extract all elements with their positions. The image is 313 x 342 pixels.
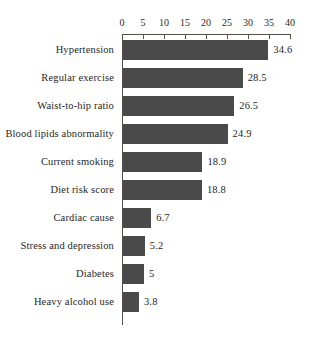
bar xyxy=(123,124,228,144)
bar-category-label: Current smoking xyxy=(0,152,114,172)
bar-rows: Hypertension34.6Regular exercise28.5Wais… xyxy=(0,0,313,342)
bar-row: Stress and depression5.2 xyxy=(0,236,313,256)
bar xyxy=(123,40,268,60)
bar-value-label: 34.6 xyxy=(273,40,292,60)
bar xyxy=(123,152,202,172)
bar xyxy=(123,180,202,200)
bar xyxy=(123,96,234,116)
bar-row: Diet risk score18.8 xyxy=(0,180,313,200)
bar-category-label: Diabetes xyxy=(0,264,114,284)
bar-row: Waist-to-hip ratio26.5 xyxy=(0,96,313,116)
bar-value-label: 5 xyxy=(149,264,154,284)
bar xyxy=(123,208,151,228)
bar-value-label: 26.5 xyxy=(239,96,258,116)
bar-chart: 0510152025303540 Hypertension34.6Regular… xyxy=(0,0,313,342)
bar-category-label: Heavy alcohol use xyxy=(0,292,114,312)
bar-row: Hypertension34.6 xyxy=(0,40,313,60)
bar-value-label: 3.8 xyxy=(144,292,158,312)
bar-value-label: 18.9 xyxy=(207,152,226,172)
bar-row: Regular exercise28.5 xyxy=(0,68,313,88)
bar xyxy=(123,236,145,256)
bar xyxy=(123,264,144,284)
bar-category-label: Waist-to-hip ratio xyxy=(0,96,114,116)
bar-value-label: 6.7 xyxy=(156,208,170,228)
bar-value-label: 28.5 xyxy=(248,68,267,88)
bar-row: Current smoking18.9 xyxy=(0,152,313,172)
bar-row: Heavy alcohol use3.8 xyxy=(0,292,313,312)
bar-value-label: 24.9 xyxy=(233,124,252,144)
bar-category-label: Stress and depression xyxy=(0,236,114,256)
bar-category-label: Diet risk score xyxy=(0,180,114,200)
bar-value-label: 18.8 xyxy=(207,180,226,200)
bar-row: Diabetes5 xyxy=(0,264,313,284)
bar-category-label: Regular exercise xyxy=(0,68,114,88)
bar-category-label: Blood lipids abnormality xyxy=(0,124,114,144)
bar-row: Blood lipids abnormality24.9 xyxy=(0,124,313,144)
bar-category-label: Hypertension xyxy=(0,40,114,60)
bar-row: Cardiac cause6.7 xyxy=(0,208,313,228)
bar-category-label: Cardiac cause xyxy=(0,208,114,228)
bar-value-label: 5.2 xyxy=(150,236,164,256)
bar xyxy=(123,292,139,312)
bar xyxy=(123,68,243,88)
